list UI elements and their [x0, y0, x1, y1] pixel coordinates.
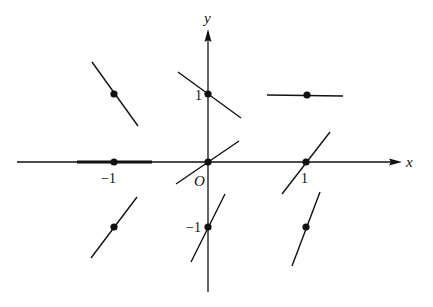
- point-pos1-0: [302, 158, 309, 165]
- origin-label: O: [194, 173, 205, 189]
- y-tick-label-pos1: 1: [195, 88, 202, 103]
- x-tick-label-neg1: −1: [101, 171, 116, 186]
- y-tick-label-neg1: −1: [186, 220, 201, 235]
- point-pos1-neg1: [302, 223, 309, 230]
- slope-field-diagram: x y O −1 1 1 −1: [0, 0, 433, 307]
- point-pos1-pos1: [303, 91, 310, 98]
- point-0-neg1: [204, 223, 211, 230]
- point-neg1-pos1: [110, 90, 117, 97]
- y-axis-label: y: [202, 10, 211, 26]
- point-0-0: [204, 158, 211, 165]
- point-neg1-0: [110, 158, 117, 165]
- point-0-pos1: [204, 90, 211, 97]
- x-tick-label-pos1: 1: [301, 171, 308, 186]
- point-neg1-neg1: [110, 223, 117, 230]
- x-axis-label: x: [405, 154, 413, 170]
